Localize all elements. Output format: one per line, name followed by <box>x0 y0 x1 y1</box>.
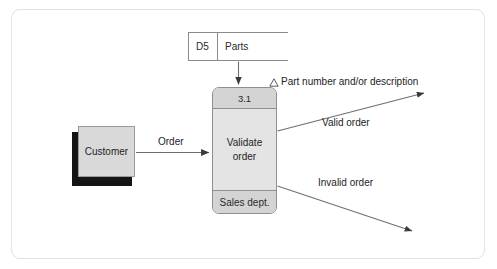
diagram-canvas: D5 Parts Customer 3.1 Validate order Sal… <box>0 0 497 269</box>
flow-label-order: Order <box>158 136 184 147</box>
flow-label-invalid-order: Invalid order <box>318 177 373 188</box>
process-location: Sales dept. <box>213 190 276 213</box>
process-name: Validate order <box>213 109 276 190</box>
process-name-line-2: order <box>233 150 256 164</box>
process-number: 3.1 <box>213 88 276 109</box>
external-entity-customer[interactable]: Customer <box>72 126 136 182</box>
entity-label: Customer <box>78 126 135 177</box>
process-validate-order[interactable]: 3.1 Validate order Sales dept. <box>212 87 277 214</box>
data-store-name: Parts <box>225 32 248 61</box>
data-store-parts[interactable]: D5 Parts <box>188 32 288 61</box>
flow-label-annotation: Part number and/or description <box>281 76 418 87</box>
process-name-line-1: Validate <box>227 136 262 150</box>
data-store-divider <box>217 32 218 61</box>
data-store-id: D5 <box>188 32 217 61</box>
triangle-marker-icon <box>269 78 279 87</box>
flow-label-valid-order: Valid order <box>322 117 370 128</box>
